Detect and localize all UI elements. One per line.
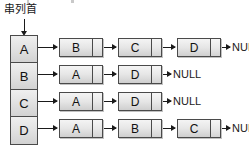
arrow-to-null [222,47,230,48]
node-link-cell [152,120,161,137]
node-data-cell: B [119,120,152,137]
arrow-between-nodes [104,128,116,129]
arrow-between-nodes [104,101,116,102]
node-data-cell: C [178,120,211,137]
list-node: D [118,65,162,84]
null-terminator-label: NULL [173,69,201,80]
arrow-to-null [222,128,230,129]
node-data-cell: A [60,93,93,110]
node-link-cell [152,93,161,110]
node-data-cell: A [60,66,93,83]
list-node: D [118,92,162,111]
arrow-to-null [163,74,171,75]
node-link-cell [93,120,102,137]
head-array: A B C D [10,35,38,145]
list-node: A [59,65,103,84]
head-array-cell-label: D [19,123,28,138]
node-data-cell: B [60,39,93,56]
arrow-head-b-to-node [38,74,57,75]
arrow-to-null [163,101,171,102]
arrow-head-c-to-node [38,101,57,102]
head-array-cell-c: C [11,90,37,117]
node-data-cell: D [119,93,152,110]
node-link-cell [93,93,102,110]
node-link-cell [152,66,161,83]
arrow-head-d-to-node [38,128,57,129]
list-node: C [177,119,221,138]
list-node: B [118,119,162,138]
head-array-cell-label: A [20,42,29,57]
node-link-cell [211,120,220,137]
list-node: A [59,119,103,138]
null-terminator-label: NULL [173,96,201,107]
scan-artifact-mark [71,0,74,3]
node-data-cell: D [178,39,211,56]
arrow-between-nodes [163,47,175,48]
head-array-cell-label: C [19,96,28,111]
list-head-label: 串列首 [4,3,37,16]
node-data-cell: D [119,66,152,83]
list-node: B [59,38,103,57]
list-node: D [177,38,221,57]
null-terminator-label: NULL [232,42,249,53]
node-data-cell: C [119,39,152,56]
null-terminator-label: NULL [232,123,249,134]
node-link-cell [93,39,102,56]
node-link-cell [93,66,102,83]
head-array-cell-a: A [11,36,37,63]
head-array-cell-d: D [11,117,37,144]
arrow-between-nodes [104,74,116,75]
arrow-between-nodes [163,128,175,129]
list-node: C [118,38,162,57]
node-link-cell [211,39,220,56]
arrow-head-a-to-node [38,47,57,48]
adjacency-list-diagram: 串列首 A B C D B C D NULL A [0,0,249,158]
list-node: A [59,92,103,111]
head-array-cell-label: B [20,69,29,84]
node-link-cell [152,39,161,56]
node-data-cell: A [60,120,93,137]
arrow-between-nodes [104,47,116,48]
head-array-cell-b: B [11,63,37,90]
